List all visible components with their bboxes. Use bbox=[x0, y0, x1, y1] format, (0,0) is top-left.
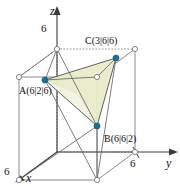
cube-hidden-edges bbox=[19, 49, 135, 180]
corner-marker-top-front-left bbox=[16, 74, 21, 79]
tick-label-z: 6 bbox=[41, 23, 47, 34]
cube-visible-edges bbox=[19, 49, 135, 180]
corner-marker-bottom-front-right bbox=[94, 177, 99, 182]
point-label-c: C(3|6|6) bbox=[85, 36, 117, 46]
geometry-figure: z y x 6 6 6 A(6|2|6) B(6|6|2) C(3|6|6) bbox=[0, 0, 180, 186]
tick-label-y: 6 bbox=[130, 158, 136, 169]
corner-marker-y6 bbox=[132, 149, 137, 154]
tick-label-x: 6 bbox=[4, 166, 10, 177]
corner-marker-z6 bbox=[54, 46, 59, 51]
point-label-a: A(6|2|6) bbox=[19, 86, 52, 96]
corner-marker-top-front-right bbox=[94, 74, 99, 79]
point-marker-c bbox=[113, 55, 119, 61]
axis-label-z: z bbox=[50, 5, 55, 17]
corner-marker-x6 bbox=[16, 177, 21, 182]
corner-marker-top-back-right bbox=[132, 46, 137, 51]
axis-label-x: x bbox=[26, 172, 31, 184]
cube-corner-markers bbox=[16, 46, 137, 182]
point-marker-b bbox=[94, 123, 100, 129]
point-marker-a bbox=[42, 77, 48, 83]
axis-label-y: y bbox=[166, 157, 171, 169]
point-label-b: B(6|6|2) bbox=[104, 134, 136, 144]
axis-y-arrowhead bbox=[169, 148, 178, 155]
